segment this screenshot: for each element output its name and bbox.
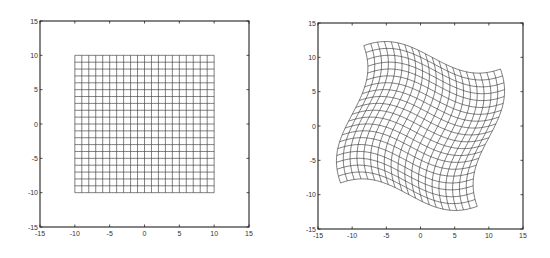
mesh-lines [336,42,504,211]
y-tick-label: 15 [308,20,316,27]
x-tick-label: 15 [245,230,253,237]
y-tick-labels: -15-10-5051015 [28,18,38,231]
mesh-line [338,172,475,204]
x-tick-label: -10 [347,232,357,239]
y-tick-label: 10 [308,54,316,61]
y-tick-labels: -15-10-5051015 [306,20,316,233]
y-tick-label: 5 [34,86,38,93]
plot-warped-grid: -15-10-5051015 -15-10-5051015 [306,20,527,240]
x-tick-labels: -15-10-5051015 [35,230,253,237]
y-tick-label: 0 [34,121,38,128]
x-tick-label: 5 [177,230,181,237]
x-tick-label: 0 [143,230,147,237]
y-tick-label: -15 [306,226,316,233]
mesh-line [345,124,482,156]
x-tick-label: -5 [107,230,113,237]
x-tick-label: -15 [35,230,45,237]
y-tick-label: 15 [30,18,38,25]
y-tick-label: -10 [28,189,38,196]
x-tick-label: 0 [419,232,423,239]
mesh-lines [75,55,214,192]
mesh-line [473,69,504,206]
x-tick-label: -10 [70,230,80,237]
figure-canvas: -15-10-5051015 -15-10-5051015 -15-10-505… [0,0,550,258]
mesh-line [341,179,478,211]
y-tick-label: -10 [306,191,316,198]
x-tick-label: 10 [485,232,493,239]
x-tick-label: 10 [210,230,218,237]
y-tick-label: 10 [30,52,38,59]
plot-regular-grid: -15-10-5051015 -15-10-5051015 [28,18,253,238]
x-tick-label: -15 [313,232,323,239]
x-tick-label: -5 [383,232,389,239]
y-tick-label: -5 [32,155,38,162]
y-tick-label: 0 [312,123,316,130]
mesh-line [359,96,496,128]
x-tick-label: 15 [519,232,527,239]
mesh-line [365,83,502,115]
mesh-line [342,131,479,163]
x-tick-labels: -15-10-5051015 [313,232,527,239]
mesh-line [340,138,477,170]
figure: -15-10-5051015 -15-10-5051015 -15-10-505… [0,0,550,258]
mesh-line [366,48,503,80]
mesh-line [362,90,499,122]
mesh-line [352,110,489,142]
mesh-line [367,76,504,108]
mesh-line [336,46,367,183]
x-tick-label: 5 [453,232,457,239]
mesh-line [338,145,475,177]
mesh-line [364,42,501,74]
y-tick-label: 5 [312,88,316,95]
y-tick-label: -15 [28,224,38,231]
y-tick-label: -5 [310,157,316,164]
